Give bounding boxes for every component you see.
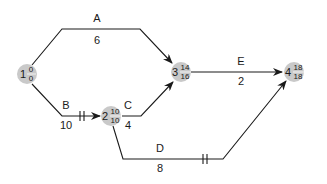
activity-d-name: D [156,142,164,154]
activity-c-name: C [124,99,132,111]
activity-e-name: E [237,55,244,67]
activity-e: E 2 [191,55,282,87]
activity-a-name: A [93,12,101,24]
activity-a-arrow [32,29,172,65]
node-2-earliest: 10 [111,107,120,116]
node-4-id: 4 [285,66,291,78]
node-2-id: 2 [102,110,108,122]
activity-d-duration: 8 [157,162,163,174]
activity-b-name: B [62,99,69,111]
node-2-latest: 10 [111,116,120,125]
node-4-latest: 18 [294,72,303,81]
node-1-id: 1 [20,68,26,80]
node-1-latest: 0 [29,74,34,83]
activity-d-arrow [113,81,286,159]
node-3-earliest: 14 [181,63,190,72]
network-diagram: A 6 B 10 C 4 D 8 E 2 1 0 0 2 [0,0,327,184]
activity-b: B 10 [32,84,100,131]
activity-a: A 6 [32,12,172,65]
node-3-id: 3 [172,66,178,78]
activity-b-duration: 10 [60,119,72,131]
node-3-latest: 16 [181,72,190,81]
node-3: 3 14 16 [171,62,191,82]
node-2: 2 10 10 [101,106,121,126]
activity-a-duration: 6 [94,34,100,46]
node-1: 1 0 0 [17,64,37,84]
activity-e-duration: 2 [238,75,244,87]
node-4: 4 18 18 [284,62,304,82]
activity-d: D 8 [113,81,286,174]
activity-c: C 4 [122,82,173,131]
node-4-earliest: 18 [294,63,303,72]
activity-c-duration: 4 [125,119,131,131]
node-1-earliest: 0 [29,65,34,74]
